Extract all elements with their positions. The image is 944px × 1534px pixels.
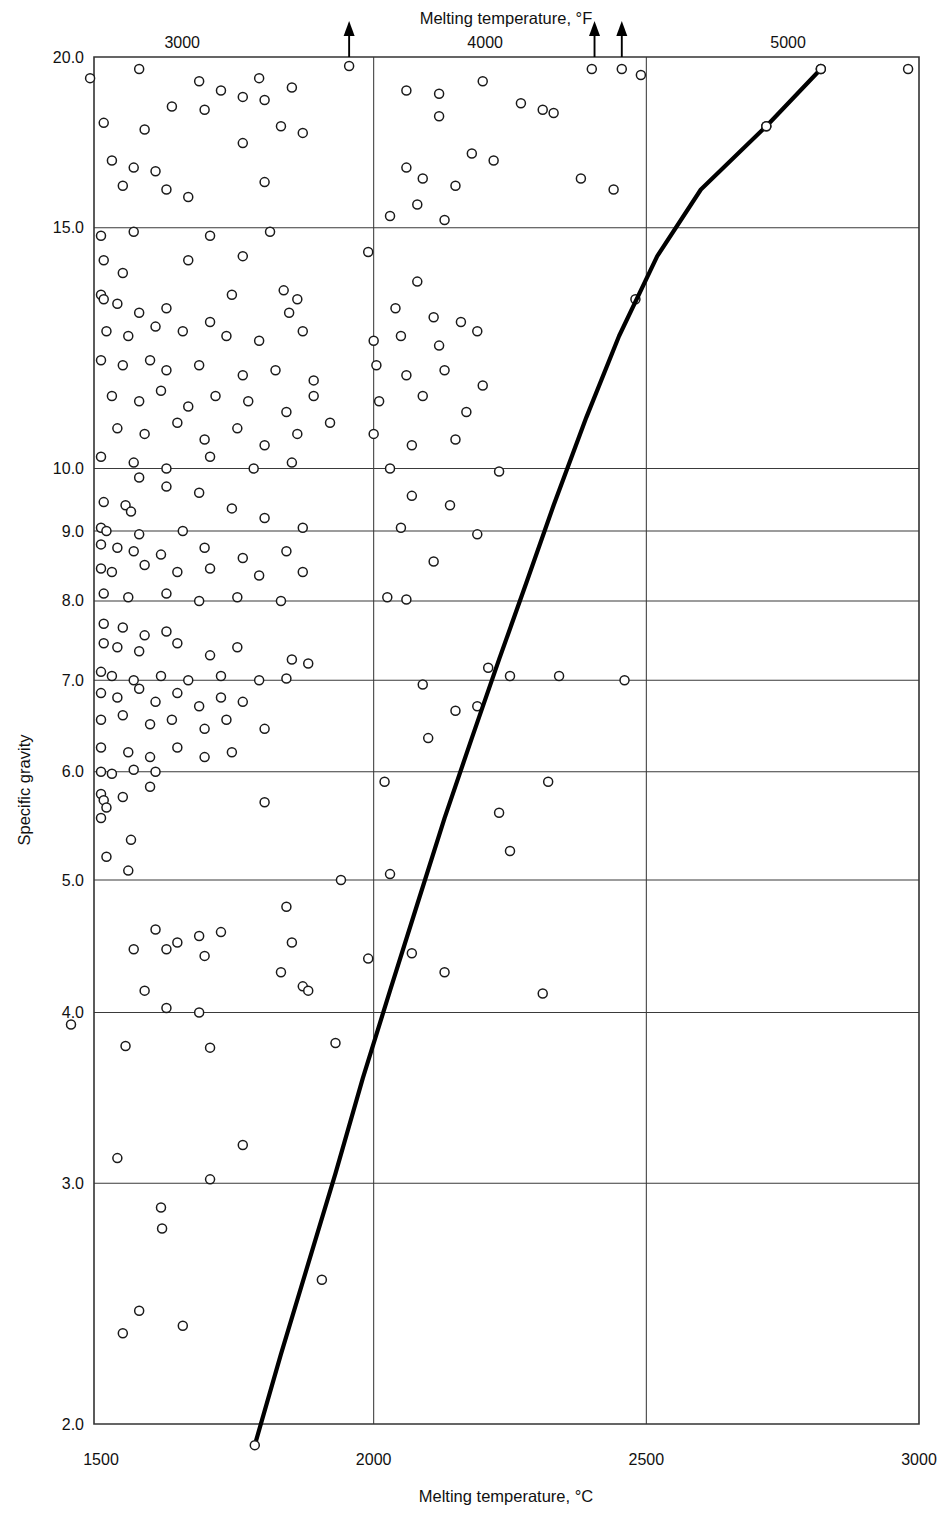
data-point xyxy=(107,672,116,681)
data-point xyxy=(140,560,149,569)
data-point xyxy=(146,782,155,791)
data-point xyxy=(200,753,209,762)
data-point xyxy=(126,507,135,516)
data-point xyxy=(146,720,155,729)
data-point xyxy=(293,295,302,304)
top-axis-title: Melting temperature, °F xyxy=(420,9,593,27)
data-point xyxy=(97,564,106,573)
data-point xyxy=(282,902,291,911)
data-point xyxy=(200,951,209,960)
data-point xyxy=(282,674,291,683)
data-point xyxy=(293,429,302,438)
data-point xyxy=(195,488,204,497)
data-point xyxy=(238,1140,247,1149)
data-point xyxy=(309,391,318,400)
data-point xyxy=(429,313,438,322)
data-point xyxy=(402,371,411,380)
data-point xyxy=(162,464,171,473)
left-axis-tick-labels: 2.03.04.05.06.07.08.09.010.015.020.0 xyxy=(53,49,84,1433)
data-point xyxy=(298,568,307,577)
data-point xyxy=(140,125,149,134)
data-point xyxy=(140,429,149,438)
data-point xyxy=(446,501,455,510)
data-point xyxy=(429,557,438,566)
data-point xyxy=(158,1224,167,1233)
data-point xyxy=(211,391,220,400)
data-point xyxy=(113,424,122,433)
scatter-plot-svg: 1500200025003000 300040005000 2.03.04.05… xyxy=(0,0,944,1534)
data-point xyxy=(255,74,264,83)
data-point xyxy=(473,530,482,539)
data-point xyxy=(146,753,155,762)
data-point xyxy=(99,589,108,598)
data-point xyxy=(282,547,291,556)
data-point xyxy=(200,435,209,444)
data-point xyxy=(227,748,236,757)
data-point xyxy=(195,361,204,370)
data-point xyxy=(402,595,411,604)
data-point xyxy=(216,672,225,681)
data-point xyxy=(473,327,482,336)
data-point xyxy=(260,441,269,450)
y-tick-label: 3.0 xyxy=(62,1175,84,1192)
data-point xyxy=(195,77,204,86)
data-point xyxy=(107,568,116,577)
curve-endpoint-marker xyxy=(250,1441,259,1450)
data-point xyxy=(238,252,247,261)
data-point xyxy=(244,397,253,406)
data-point xyxy=(124,593,133,602)
y-tick-label: 4.0 xyxy=(62,1004,84,1021)
data-point xyxy=(102,852,111,861)
data-point xyxy=(151,697,160,706)
x-tick-label-bottom: 2000 xyxy=(356,1451,392,1468)
x-tick-label-bottom: 3000 xyxy=(901,1451,937,1468)
y-tick-label: 2.0 xyxy=(62,1416,84,1433)
data-point xyxy=(238,139,247,148)
data-point xyxy=(195,1008,204,1017)
data-point xyxy=(904,64,913,73)
plot-background xyxy=(94,57,919,1424)
data-point xyxy=(413,277,422,286)
data-point xyxy=(238,697,247,706)
data-point xyxy=(369,429,378,438)
y-tick-label: 9.0 xyxy=(62,523,84,540)
data-point xyxy=(173,568,182,577)
data-point xyxy=(200,543,209,552)
data-point xyxy=(129,227,138,236)
data-point xyxy=(97,452,106,461)
data-point xyxy=(451,435,460,444)
data-point xyxy=(97,356,106,365)
data-point xyxy=(129,945,138,954)
data-point xyxy=(478,77,487,86)
data-point xyxy=(195,932,204,941)
data-point xyxy=(99,639,108,648)
data-point xyxy=(113,693,122,702)
data-point xyxy=(276,596,285,605)
data-point xyxy=(407,949,416,958)
data-point xyxy=(129,676,138,685)
data-point xyxy=(451,706,460,715)
data-point xyxy=(195,702,204,711)
data-point xyxy=(216,693,225,702)
data-point xyxy=(255,571,264,580)
data-point xyxy=(156,550,165,559)
data-point xyxy=(260,514,269,523)
data-point xyxy=(238,554,247,563)
data-point xyxy=(266,227,275,236)
data-point xyxy=(233,643,242,652)
data-point xyxy=(435,112,444,121)
data-point xyxy=(200,105,209,114)
x-tick-label-top: 4000 xyxy=(467,34,503,51)
data-point xyxy=(304,986,313,995)
data-point xyxy=(386,212,395,221)
data-point xyxy=(206,231,215,240)
data-point xyxy=(129,765,138,774)
data-point xyxy=(99,118,108,127)
data-point xyxy=(298,523,307,532)
data-point xyxy=(369,336,378,345)
data-point xyxy=(287,458,296,467)
data-point xyxy=(102,803,111,812)
data-point xyxy=(440,968,449,977)
data-point xyxy=(407,491,416,500)
y-tick-label: 7.0 xyxy=(62,672,84,689)
